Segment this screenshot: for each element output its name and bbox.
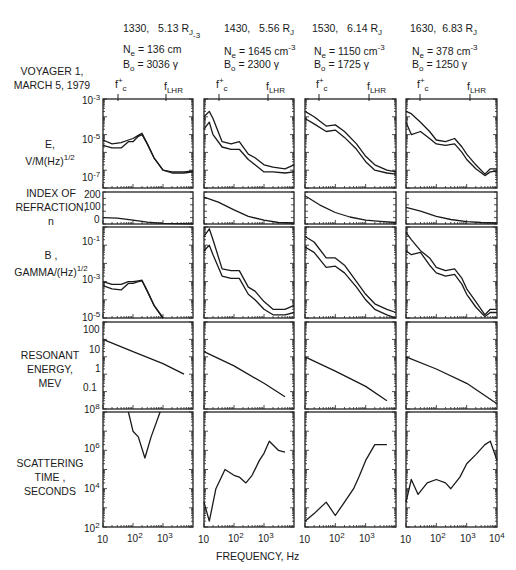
chart-panels (0, 0, 516, 570)
